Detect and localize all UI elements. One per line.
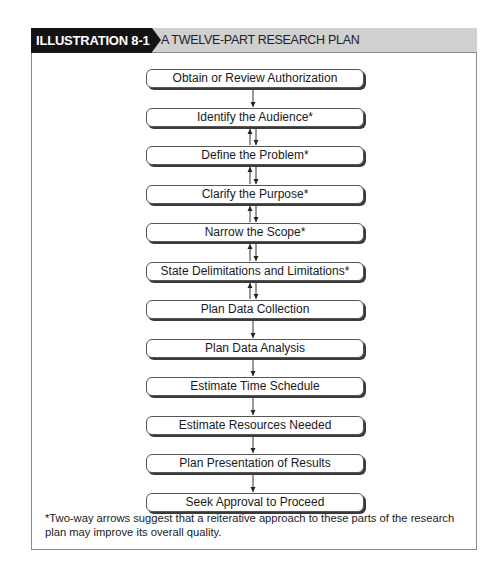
flowchart-step: Identify the Audience* [146, 108, 364, 127]
down-arrow-icon [245, 398, 265, 415]
two-way-arrow-icon [245, 206, 265, 222]
flowchart-step: Estimate Resources Needed [146, 416, 364, 435]
down-arrow-icon [245, 475, 265, 492]
flowchart-step: Narrow the Scope* [146, 223, 364, 242]
down-arrow-icon [245, 90, 265, 107]
illustration-title: A TWELVE-PART RESEARCH PLAN [161, 28, 359, 53]
two-way-arrow-icon [245, 244, 265, 261]
label-arrow-shape [152, 28, 161, 52]
two-way-arrow-icon [245, 167, 265, 184]
flowchart-step: Seek Approval to Proceed [146, 493, 364, 512]
two-way-arrow-icon [245, 129, 265, 145]
down-arrow-icon [245, 360, 265, 376]
flowchart-step: Define the Problem* [146, 146, 364, 165]
flowchart-step: Plan Data Analysis [146, 339, 364, 358]
down-arrow-icon [245, 437, 265, 453]
two-way-arrow-icon [245, 283, 265, 299]
footnote: *Two-way arrows suggest that a reiterati… [45, 511, 470, 539]
illustration-label: ILLUSTRATION 8-1 [31, 28, 152, 53]
flowchart-step: State Delimitations and Limitations* [146, 262, 364, 281]
flowchart-step: Estimate Time Schedule [146, 377, 364, 396]
flowchart-step: Clarify the Purpose* [146, 185, 364, 204]
flowchart-step: Plan Presentation of Results [146, 454, 364, 473]
flowchart-step: Plan Data Collection [146, 300, 364, 319]
down-arrow-icon [245, 321, 265, 338]
flowchart-step: Obtain or Review Authorization [146, 69, 364, 88]
